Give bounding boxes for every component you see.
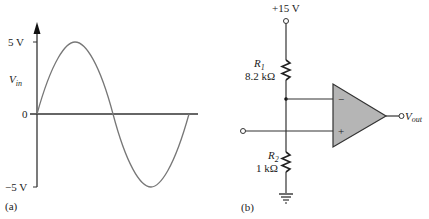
input-terminal-icon <box>241 129 246 134</box>
panel-a-waveform: 5 V 0 −5 V Vin (a) <box>5 22 198 213</box>
diagram-canvas: 5 V 0 −5 V Vin (a) +15 V R1 8.2 kΩ R2 1 … <box>0 0 429 219</box>
supply-label: +15 V <box>272 2 300 14</box>
panel-a-caption: (a) <box>5 200 18 213</box>
resistor-r1-icon <box>282 60 290 80</box>
output-terminal-icon <box>399 114 404 119</box>
y-axis-label: Vin <box>9 73 22 88</box>
tick-label-5v: 5 V <box>8 36 24 48</box>
panel-b-circuit: +15 V R1 8.2 kΩ R2 1 kΩ (b) − + <box>241 2 423 214</box>
ground-icon <box>279 194 293 203</box>
noninverting-sign: + <box>338 125 344 137</box>
tick-label-0: 0 <box>22 108 28 120</box>
r2-value: 1 kΩ <box>256 162 278 174</box>
y-axis-arrow-icon <box>34 22 41 34</box>
output-label: Vout <box>405 110 423 124</box>
tick-label-neg5v: −5 V <box>5 181 27 193</box>
supply-terminal-icon <box>284 19 289 24</box>
r1-value: 8.2 kΩ <box>245 70 275 82</box>
panel-b-caption: (b) <box>241 201 254 214</box>
inverting-sign: − <box>338 93 344 105</box>
resistor-r2-icon <box>282 152 290 172</box>
